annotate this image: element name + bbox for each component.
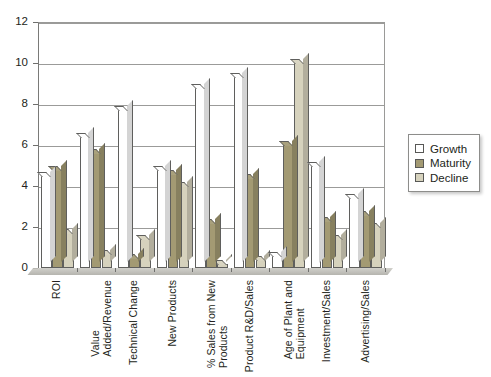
x-tick-mark (308, 268, 309, 272)
y-tick-label: 6 (4, 139, 28, 151)
x-axis-label: New Products (167, 280, 179, 347)
bar-top-face (191, 84, 205, 89)
bar-side-face (99, 143, 105, 262)
bar-top-face (268, 252, 282, 257)
bar-growth[interactable] (349, 198, 360, 268)
x-axis-label: Age of Plant and Equipment (283, 280, 306, 359)
x-axis-label: % Sales from New Products (206, 280, 229, 368)
y-tick-label: 12 (4, 16, 28, 28)
bar-growth[interactable] (80, 137, 91, 268)
x-tick-mark (115, 268, 116, 272)
legend-swatch-growth (415, 144, 424, 153)
bar-side-face (176, 164, 182, 262)
bar-side-face (358, 188, 364, 262)
bars-layer (38, 22, 385, 268)
bar-side-face (303, 53, 309, 262)
bar-side-face (319, 156, 325, 263)
bar-side-face (253, 168, 259, 262)
legend-item-growth[interactable]: Growth (415, 143, 471, 155)
bar-side-face (242, 67, 248, 262)
bar-side-face (61, 160, 67, 262)
bar-growth[interactable] (157, 170, 168, 268)
bar-side-face (380, 217, 386, 262)
legend-swatch-decline (415, 173, 424, 182)
y-tick-label: 10 (4, 57, 28, 69)
bar-side-face (292, 135, 298, 262)
bar-growth[interactable] (311, 166, 322, 269)
bar-side-face (149, 229, 155, 262)
x-tick-mark (192, 268, 193, 272)
bar-decline[interactable] (217, 264, 228, 268)
x-axis-label: Technical Change (128, 280, 140, 365)
x-axis-label: ROI (51, 280, 63, 299)
bar-side-face (88, 127, 94, 262)
bar-side-face (110, 244, 116, 262)
bar-side-face (369, 205, 375, 262)
legend-label-growth: Growth (430, 143, 467, 155)
bar-top-face (290, 59, 304, 64)
bar-growth[interactable] (118, 110, 129, 268)
x-axis-label: Product R&D/Sales (244, 280, 256, 372)
x-axis-label: Investment/Sales (321, 280, 333, 362)
y-tick-label: 0 (4, 262, 28, 274)
x-tick-mark (385, 268, 386, 272)
bar-decline[interactable] (256, 260, 267, 268)
x-axis-label: Value Added/Revenue (90, 280, 113, 357)
bar-side-face (127, 100, 133, 262)
bar-chart: 024681012 ROIValue Added/RevenueTechnica… (0, 0, 491, 377)
bar-side-face (215, 213, 221, 262)
legend-swatch-maturity (415, 159, 424, 168)
y-tick-label: 2 (4, 221, 28, 233)
legend-label-maturity: Maturity (430, 157, 471, 169)
y-tick-label: 4 (4, 180, 28, 192)
bar-side-face (50, 166, 56, 262)
x-tick-mark (77, 268, 78, 272)
bar-growth[interactable] (234, 77, 245, 268)
legend-label-decline: Decline (430, 172, 468, 184)
bar-top-face (345, 194, 359, 199)
x-axis-label: Advertising/Sales (360, 280, 372, 363)
y-tick-label: 8 (4, 98, 28, 110)
bar-side-face (330, 211, 336, 262)
bar-side-face (165, 160, 171, 262)
bar-side-face (226, 254, 232, 262)
bar-growth[interactable] (195, 88, 206, 268)
legend-item-decline[interactable]: Decline (415, 172, 471, 184)
x-tick-mark (346, 268, 347, 272)
axis-baseline-3d (28, 268, 393, 275)
x-tick-mark (154, 268, 155, 272)
bar-growth[interactable] (272, 256, 283, 268)
bar-maturity[interactable] (129, 258, 140, 268)
bar-side-face (204, 78, 210, 262)
x-tick-mark (269, 268, 270, 272)
bar-top-face (37, 172, 51, 177)
bar-top-face (279, 141, 293, 146)
bar-top-face (114, 106, 128, 111)
bar-side-face (72, 223, 78, 262)
x-tick-mark (231, 268, 232, 272)
bar-growth[interactable] (41, 176, 52, 268)
bar-side-face (187, 176, 193, 262)
bar-top-face (136, 235, 150, 240)
bar-side-face (341, 229, 347, 262)
legend-item-maturity[interactable]: Maturity (415, 157, 471, 169)
legend: Growth Maturity Decline (408, 134, 480, 192)
